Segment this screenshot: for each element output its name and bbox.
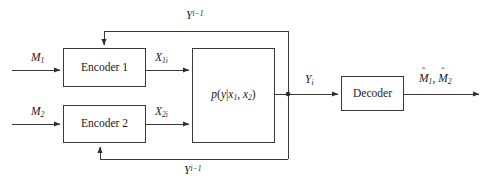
- diagram-canvas: Encoder 1 Encoder 2 p(y|x1, x2) Decoder …: [0, 0, 489, 187]
- label-message-estimates: ˆM1, ˆM2: [419, 73, 452, 86]
- label-channel-output: Yi: [305, 74, 314, 87]
- label-message-1: M1: [31, 52, 44, 65]
- encoder-2-label: Encoder 2: [81, 118, 128, 130]
- label-message-2: M2: [31, 106, 44, 119]
- label-codeword-2: X2i: [155, 106, 168, 119]
- encoder-1-label: Encoder 1: [81, 62, 128, 74]
- label-feedback-top: Yi−1: [186, 10, 203, 22]
- channel-transition-probability-label: p(y|x1, x2): [211, 89, 255, 102]
- block-encoder-1[interactable]: Encoder 1: [63, 48, 146, 87]
- decoder-label: Decoder: [353, 88, 392, 100]
- label-feedback-bottom: Yi−1: [184, 165, 201, 177]
- block-encoder-2[interactable]: Encoder 2: [63, 105, 146, 143]
- block-decoder[interactable]: Decoder: [341, 76, 404, 111]
- label-codeword-1: X1i: [155, 52, 168, 65]
- block-channel[interactable]: p(y|x1, x2): [192, 48, 275, 143]
- feedback-junction-dot: [286, 92, 291, 97]
